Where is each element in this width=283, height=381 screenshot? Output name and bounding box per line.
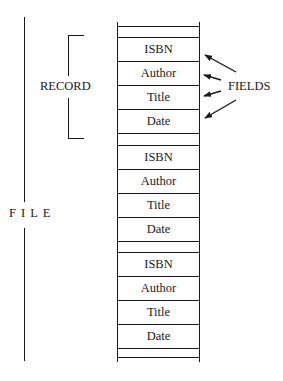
arrow-icon xyxy=(204,75,221,80)
fields-arrows xyxy=(0,0,283,381)
fields-label: FIELDS xyxy=(228,79,270,94)
arrow-icon xyxy=(205,100,236,118)
arrow-icon xyxy=(205,55,236,72)
arrow-icon xyxy=(204,91,221,96)
